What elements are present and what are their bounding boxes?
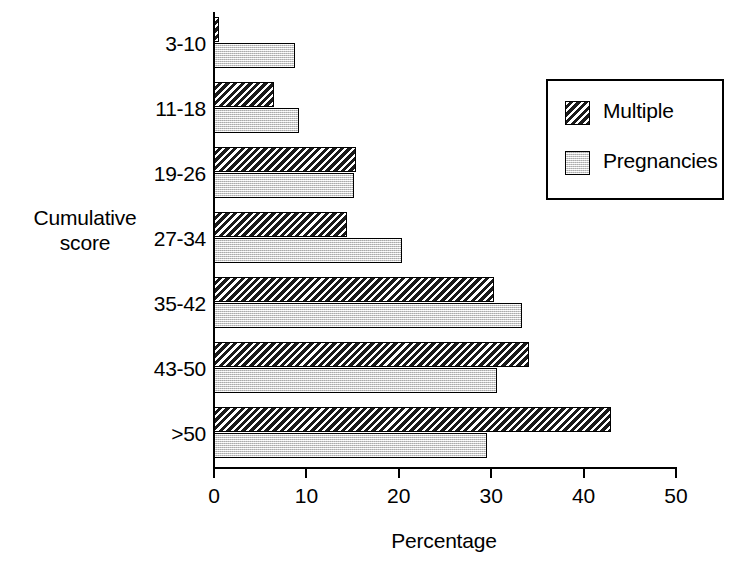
y-axis-category-label: 35-42 — [106, 292, 206, 316]
legend-label-pregnancies: Pregnancies — [603, 149, 718, 173]
x-axis-tick-label: 0 — [184, 484, 244, 508]
y-axis-category-label: 11-18 — [106, 97, 206, 121]
y-axis-category-label: 19-26 — [106, 162, 206, 186]
bar-multiple->50 — [214, 407, 611, 432]
legend-label-multiple: Multiple — [603, 99, 674, 123]
x-axis-tick-label: 30 — [461, 484, 521, 508]
bar-pregnancies-27-34 — [214, 238, 402, 263]
x-axis-tick-label: 10 — [276, 484, 336, 508]
x-axis-tick — [675, 469, 677, 478]
bar-pregnancies->50 — [214, 433, 487, 458]
bar-pregnancies-19-26 — [214, 173, 354, 198]
bar-pregnancies-43-50 — [214, 368, 497, 393]
bar-chart: Cumulative score 3-1011-1819-2627-3435-4… — [0, 0, 741, 578]
y-axis-category-label: 43-50 — [106, 357, 206, 381]
x-axis-tick-label: 20 — [369, 484, 429, 508]
legend: Multiple Pregnancies — [546, 79, 724, 200]
bar-pregnancies-35-42 — [214, 303, 522, 328]
x-axis-tick — [490, 469, 492, 478]
y-axis-category-label: 3-10 — [106, 32, 206, 56]
bar-pregnancies-3-10 — [214, 43, 295, 68]
x-axis-tick — [583, 469, 585, 478]
bar-multiple-11-18 — [214, 82, 274, 107]
x-axis-tick-label: 40 — [554, 484, 614, 508]
x-axis-title: Percentage — [213, 529, 675, 553]
y-axis-category-label: 27-34 — [106, 227, 206, 251]
category-labels: 3-1011-1819-2627-3435-4243-50>50 — [100, 0, 206, 470]
bar-multiple-43-50 — [214, 342, 529, 367]
light-gray-stipple-swatch — [565, 151, 590, 175]
bar-pregnancies-11-18 — [214, 108, 299, 133]
bar-multiple-3-10 — [214, 17, 219, 42]
bar-multiple-19-26 — [214, 147, 356, 172]
x-axis-tick-label: 50 — [646, 484, 706, 508]
x-axis-tick — [305, 469, 307, 478]
hatch-diagonal-swatch — [565, 101, 590, 125]
x-axis-tick — [213, 469, 215, 478]
x-axis-tick — [398, 469, 400, 478]
bar-multiple-27-34 — [214, 212, 347, 237]
bar-multiple-35-42 — [214, 277, 494, 302]
x-axis-line — [213, 467, 677, 469]
y-axis-category-label: >50 — [106, 422, 206, 446]
